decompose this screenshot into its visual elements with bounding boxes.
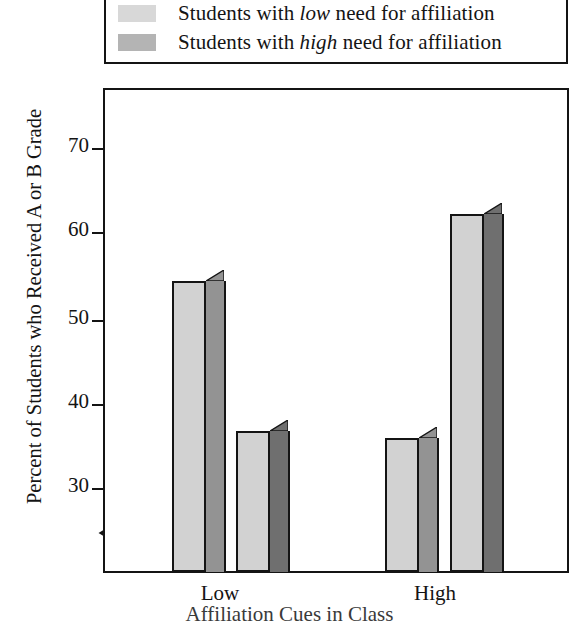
bar-side-face: [270, 431, 290, 572]
bar-top-face: [206, 270, 224, 281]
bar-top-face: [270, 420, 288, 431]
bar-top-face: [419, 427, 437, 438]
bar-front-face: [172, 281, 206, 572]
bar-front-face: [236, 431, 270, 572]
bar-side-face: [419, 438, 439, 572]
bar-high-cues-high-need: [450, 214, 484, 572]
bar-side-face: [484, 214, 504, 572]
x-tick-label-low: Low: [165, 583, 275, 604]
bar-low-cues-high-need: [236, 431, 270, 572]
bar-front-face: [450, 214, 484, 572]
bar-high-cues-low-need: [385, 438, 419, 572]
bar-top-face: [484, 203, 502, 214]
bar-front-face: [385, 438, 419, 572]
bar-side-face: [206, 281, 226, 572]
x-axis-title: Affiliation Cues in Class: [0, 604, 579, 625]
x-tick-label-high: High: [380, 583, 490, 604]
bar-low-cues-low-need: [172, 281, 206, 572]
